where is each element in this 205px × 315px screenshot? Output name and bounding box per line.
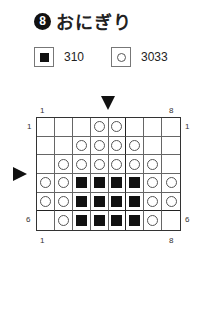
grid-cell bbox=[73, 193, 91, 212]
open-circle-icon bbox=[94, 121, 105, 132]
open-circle-icon bbox=[147, 196, 158, 207]
grid-cell bbox=[37, 193, 55, 212]
open-circle-icon bbox=[147, 177, 158, 188]
open-circle-icon bbox=[58, 159, 69, 170]
open-circle-icon bbox=[111, 121, 122, 132]
open-circle-icon bbox=[147, 159, 158, 170]
filled-square-icon bbox=[129, 215, 140, 226]
filled-square-icon bbox=[111, 215, 122, 226]
grid-cell bbox=[162, 211, 180, 230]
filled-square-icon bbox=[129, 196, 140, 207]
grid-cell bbox=[91, 118, 109, 137]
grid-cell bbox=[126, 193, 144, 212]
row-label-start-right: 1 bbox=[185, 122, 189, 131]
open-circle-icon bbox=[129, 140, 140, 151]
open-circle-icon bbox=[40, 196, 51, 207]
filled-square-icon bbox=[111, 177, 122, 188]
grid-cell bbox=[91, 155, 109, 174]
grid-cell bbox=[73, 118, 91, 137]
legend-code: 3033 bbox=[141, 50, 168, 64]
grid-cell bbox=[37, 211, 55, 230]
grid-cell bbox=[73, 137, 91, 156]
open-circle-icon bbox=[58, 177, 69, 188]
open-circle-icon bbox=[129, 159, 140, 170]
grid-cell bbox=[109, 155, 127, 174]
grid-cell bbox=[37, 174, 55, 193]
grid-cell bbox=[109, 137, 127, 156]
filled-square-icon bbox=[76, 196, 87, 207]
pattern-name: おにぎり bbox=[56, 8, 132, 34]
grid-cell bbox=[109, 193, 127, 212]
grid-cell bbox=[55, 174, 73, 193]
grid-cell bbox=[55, 137, 73, 156]
filled-square-icon bbox=[129, 177, 140, 188]
grid-cell bbox=[109, 174, 127, 193]
grid-cell bbox=[37, 155, 55, 174]
grid-cell bbox=[144, 155, 162, 174]
grid-cell bbox=[126, 211, 144, 230]
grid-cell bbox=[55, 155, 73, 174]
grid-cell bbox=[91, 193, 109, 212]
filled-square-icon bbox=[94, 177, 105, 188]
filled-square-icon bbox=[94, 215, 105, 226]
grid-cell bbox=[91, 137, 109, 156]
open-circle-icon bbox=[111, 159, 122, 170]
grid-cell bbox=[91, 174, 109, 193]
filled-square-icon bbox=[94, 196, 105, 207]
grid-cell bbox=[144, 118, 162, 137]
center-column-arrow-icon bbox=[101, 96, 115, 110]
grid-cell bbox=[109, 118, 127, 137]
grid-cell bbox=[126, 174, 144, 193]
open-circle-icon bbox=[40, 177, 51, 188]
grid-cell bbox=[126, 137, 144, 156]
grid-cell bbox=[162, 155, 180, 174]
legend-item-310: 310 bbox=[34, 47, 84, 67]
center-row-arrow-icon bbox=[13, 167, 27, 181]
filled-square-icon bbox=[76, 177, 87, 188]
open-circle-icon bbox=[166, 196, 177, 207]
open-circle-icon bbox=[94, 140, 105, 151]
grid-cell bbox=[162, 118, 180, 137]
open-circle-icon bbox=[58, 196, 69, 207]
grid-cell bbox=[162, 193, 180, 212]
grid-cell bbox=[73, 174, 91, 193]
grid-cell bbox=[109, 211, 127, 230]
open-circle-icon bbox=[147, 215, 158, 226]
grid-cell bbox=[37, 137, 55, 156]
row-label-end: 6 bbox=[26, 215, 30, 224]
filled-square-icon bbox=[111, 196, 122, 207]
col-label-end-bottom: 8 bbox=[169, 236, 173, 245]
open-circle-icon bbox=[111, 47, 131, 67]
grid-cell bbox=[144, 193, 162, 212]
grid-cell bbox=[91, 211, 109, 230]
grid-cell bbox=[162, 137, 180, 156]
grid-cell bbox=[55, 211, 73, 230]
legend-item-3033: 3033 bbox=[111, 47, 168, 67]
grid-cell bbox=[144, 211, 162, 230]
pattern-number-badge: 8 bbox=[34, 13, 51, 30]
open-circle-icon bbox=[111, 140, 122, 151]
row-label-end-right: 6 bbox=[185, 215, 189, 224]
grid-cell bbox=[144, 137, 162, 156]
col-label-end: 8 bbox=[169, 106, 173, 115]
open-circle-icon bbox=[76, 159, 87, 170]
legend-code: 310 bbox=[64, 50, 84, 64]
grid-cell bbox=[55, 193, 73, 212]
grid-cell bbox=[162, 174, 180, 193]
open-circle-icon bbox=[166, 177, 177, 188]
grid-cell bbox=[55, 118, 73, 137]
pattern-title: 8 おにぎり bbox=[34, 8, 132, 34]
grid-cell bbox=[144, 174, 162, 193]
open-circle-icon bbox=[58, 215, 69, 226]
col-label-start-bottom: 1 bbox=[40, 236, 44, 245]
col-label-start: 1 bbox=[40, 106, 44, 115]
open-circle-icon bbox=[76, 140, 87, 151]
filled-square-icon bbox=[76, 215, 87, 226]
filled-square-icon bbox=[34, 47, 54, 67]
grid-cell bbox=[73, 155, 91, 174]
open-circle-icon bbox=[94, 159, 105, 170]
stitch-chart bbox=[36, 117, 181, 231]
grid-cell bbox=[37, 118, 55, 137]
row-label-start: 1 bbox=[27, 122, 31, 131]
grid-cell bbox=[126, 155, 144, 174]
